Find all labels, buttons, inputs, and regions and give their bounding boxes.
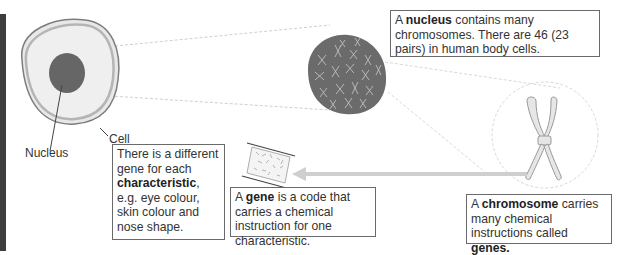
- genes-term: genes.: [471, 241, 510, 255]
- zoom-lines-nucleus-to-chromosome: [385, 62, 598, 188]
- nucleus-label: Nucleus: [25, 146, 68, 160]
- characteristic-info-box: There is a different gene for each chara…: [112, 144, 225, 240]
- nucleus-zoomed-illustration: [308, 35, 386, 114]
- gene-info-box: A gene is a code that carries a chemical…: [230, 187, 376, 237]
- nucleus-shape: [49, 53, 85, 93]
- nucleus-info-box: A nucleus contains many chromosomes. The…: [390, 10, 600, 57]
- cell-illustration: [22, 19, 119, 151]
- characteristic-term: characteristic: [117, 176, 196, 190]
- gene-term: gene: [246, 190, 274, 204]
- nucleus-term: nucleus: [406, 13, 452, 27]
- arrow-chromosome-to-gene: [292, 167, 527, 181]
- zoom-lines-cell-to-nucleus: [95, 25, 330, 110]
- chromosome-illustration: [526, 97, 561, 180]
- chromosome-info-box: A chromosome carries many chemical instr…: [466, 194, 612, 244]
- chromosome-term: chromosome: [482, 197, 559, 211]
- gene-illustration: [242, 143, 295, 189]
